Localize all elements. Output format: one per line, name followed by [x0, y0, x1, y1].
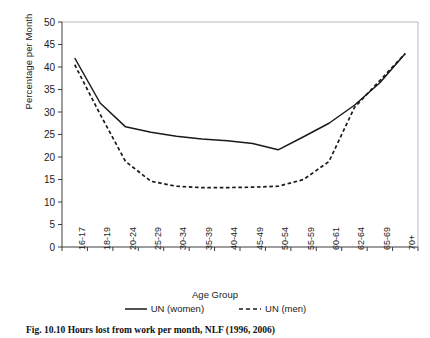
y-axis-tick-labels: 05101520253035404550 [44, 17, 56, 253]
legend-item-1: UN (women) [124, 303, 204, 314]
x-axis-tick-labels: 16-1718-1920-2425-2930-3435-3940-4445-49… [0, 249, 430, 293]
svg-text:15: 15 [44, 174, 56, 185]
legend-dashed-swatch [238, 305, 262, 313]
legend-solid-swatch [124, 305, 148, 313]
figure-caption: Fig. 10.10 Hours lost from work per mont… [26, 325, 430, 335]
figure-container: Percentage per Month 0510152025303540455… [0, 0, 430, 338]
svg-text:35: 35 [44, 84, 56, 95]
legend-label: UN (women) [151, 303, 204, 314]
y-axis-label: Percentage per Month [23, 0, 34, 152]
svg-text:50: 50 [44, 17, 56, 28]
x-axis-label: Age Group [0, 289, 430, 300]
svg-text:5: 5 [49, 219, 55, 230]
svg-text:45: 45 [44, 39, 56, 50]
legend-label: UN (men) [265, 303, 306, 314]
svg-text:30: 30 [44, 107, 56, 118]
svg-text:20: 20 [44, 152, 56, 163]
svg-text:40: 40 [44, 62, 56, 73]
y-axis-ticks [58, 22, 62, 247]
chart-legend: UN (women)UN (men) [0, 303, 430, 314]
svg-text:10: 10 [44, 197, 56, 208]
plot-frame [62, 22, 418, 247]
svg-text:25: 25 [44, 129, 56, 140]
plot-area: Percentage per Month 0510152025303540455… [0, 0, 430, 270]
legend-item-2: UN (men) [238, 303, 306, 314]
